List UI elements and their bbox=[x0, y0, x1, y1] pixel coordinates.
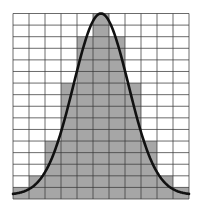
histogram-chart bbox=[0, 0, 203, 208]
